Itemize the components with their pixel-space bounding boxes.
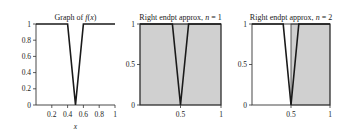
title-part: Right endpt approx, (250, 13, 316, 22)
x-tick-label: 0.2 (47, 110, 57, 119)
title-part: = 1 (209, 13, 222, 22)
figure: 00.20.40.60.810.20.40.60.81Graph of f(x)… (0, 0, 345, 131)
y-tick-label: 0 (27, 101, 31, 110)
panel-1: 00.20.40.60.810.20.40.60.81Graph of f(x)… (22, 13, 118, 131)
panel-2: 00.510.51Right endpt approx, n = 1 (126, 13, 224, 119)
x-axis-label: x (73, 122, 78, 131)
y-tick-label: 1 (131, 20, 135, 29)
chart-title: Right endpt approx, n = 1 (139, 13, 221, 22)
x-tick-label: 0.5 (286, 110, 296, 119)
y-tick-label: 1 (243, 20, 247, 29)
x-tick-label: 0.4 (63, 110, 73, 119)
x-tick-label: 0.8 (95, 110, 105, 119)
chart-title: Right endpt approx, n = 2 (250, 13, 332, 22)
y-tick-label: 1 (27, 20, 31, 29)
title-part: ) (94, 13, 97, 22)
y-tick-label: 0.8 (22, 36, 32, 45)
title-part: = 2 (320, 13, 333, 22)
x-tick-label: 0.5 (176, 110, 186, 119)
chart-title: Graph of f(x) (55, 13, 97, 22)
y-tick-label: 0 (243, 101, 247, 110)
x-tick-label: 1 (219, 110, 223, 119)
function-line (36, 24, 115, 105)
panel-3: 00.510.51Right endpt approx, n = 2 (238, 13, 333, 119)
y-tick-label: 0.5 (238, 60, 248, 69)
y-tick-label: 0.6 (22, 52, 32, 61)
y-tick-label: 0 (131, 101, 135, 110)
x-tick-label: 0.6 (79, 110, 89, 119)
title-part: Right endpt approx, (139, 13, 205, 22)
x-tick-label: 1 (113, 110, 117, 119)
y-tick-label: 0.5 (126, 60, 136, 69)
y-tick-label: 0.2 (22, 84, 32, 93)
title-part: Graph of (55, 13, 86, 22)
y-tick-label: 0.4 (22, 68, 32, 77)
approx-rectangle (140, 24, 221, 105)
x-tick-label: 1 (328, 110, 332, 119)
